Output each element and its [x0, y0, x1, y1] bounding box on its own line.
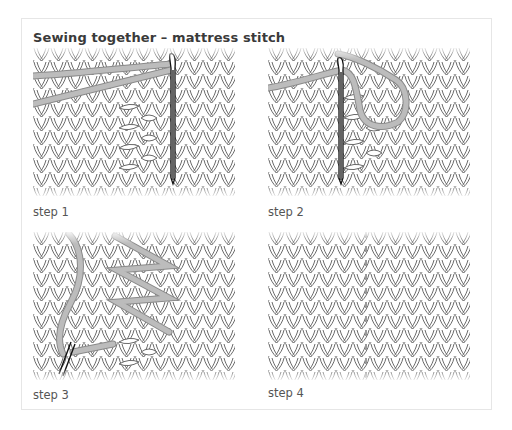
step-4-caption: step 4 — [268, 386, 304, 400]
step-3-caption: step 3 — [33, 388, 69, 402]
mattress-stitch-step1-illustration — [33, 48, 235, 196]
step-4-panel — [268, 232, 470, 380]
mattress-stitch-step4-illustration — [268, 232, 470, 380]
mattress-stitch-step3-illustration — [33, 232, 235, 380]
step-2-panel — [268, 48, 470, 196]
mattress-stitch-step2-illustration — [268, 48, 470, 196]
step-1-panel — [33, 48, 235, 196]
step-1-caption: step 1 — [33, 205, 69, 219]
diagram-title: Sewing together – mattress stitch — [33, 30, 285, 45]
step-3-panel — [33, 232, 235, 380]
step-2-caption: step 2 — [268, 205, 304, 219]
